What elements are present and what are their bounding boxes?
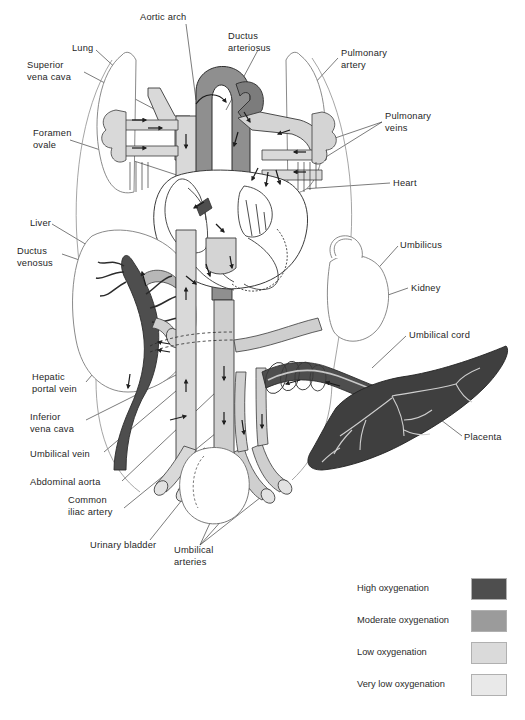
label-umbilical-vein: Umbilical vein (30, 449, 90, 461)
legend-row: Very low oxygenation (357, 674, 507, 700)
placenta (308, 346, 508, 470)
legend-row: Moderate oxygenation (357, 610, 507, 636)
label-abdominal-aorta: Abdominal aorta (30, 477, 101, 489)
label-ductus-arteriosus: Ductus arteriosus (228, 31, 271, 54)
lung-vasculature-right (312, 112, 336, 164)
urinary-bladder (180, 448, 250, 524)
legend-swatch (471, 610, 507, 632)
legend-label: High oxygenation (357, 583, 429, 593)
legend-swatch (471, 578, 507, 600)
legend-swatch (471, 674, 507, 696)
label-ductus-venosus: Ductus venosus (17, 246, 53, 269)
label-heart: Heart (393, 178, 417, 190)
legend-swatch (471, 642, 507, 664)
label-superior-vena-cava: Superior vena cava (27, 60, 71, 83)
fetal-circulation-figure: Aortic archDuctus arteriosusLungPulmonar… (0, 0, 525, 720)
label-placenta: Placenta (464, 432, 502, 444)
label-pulmonary-artery: Pulmonary artery (341, 48, 387, 71)
pulmonary-veins-right (262, 150, 320, 160)
label-liver: Liver (30, 218, 51, 230)
inferior-vena-cava-vessel (176, 230, 196, 470)
label-hepatic-portal-vein: Hepatic portal vein (32, 372, 77, 395)
umbilical-artery-ascend-l (235, 372, 248, 452)
legend-label: Very low oxygenation (357, 679, 445, 689)
aorta-root (206, 238, 236, 274)
legend-label: Moderate oxygenation (357, 615, 449, 625)
label-umbilical-cord: Umbilical cord (409, 330, 470, 342)
kidney (327, 236, 388, 341)
label-foramen-ovale: Foramen ovale (33, 128, 72, 151)
label-kidney: Kidney (411, 283, 441, 295)
legend-row: High oxygenation (357, 578, 507, 604)
label-inferior-vena-cava: Inferior vena cava (30, 412, 74, 435)
renal-vessel (234, 318, 322, 352)
placenta-body (308, 346, 508, 470)
abdominal-aorta-vessel (214, 300, 234, 472)
legend: High oxygenationModerate oxygenationLow … (357, 578, 507, 710)
label-common-iliac-artery: Common iliac artery (68, 495, 113, 518)
label-pulmonary-veins: Pulmonary veins (385, 111, 431, 134)
label-lung: Lung (72, 43, 93, 55)
label-aortic-arch: Aortic arch (140, 12, 186, 24)
label-umbilical-arteries: Umbilical arteries (174, 545, 213, 568)
legend-row: Low oxygenation (357, 642, 507, 668)
legend-label: Low oxygenation (357, 647, 427, 657)
label-urinary-bladder: Urinary bladder (90, 540, 156, 552)
label-umbilicus: Umbilicus (400, 240, 442, 252)
